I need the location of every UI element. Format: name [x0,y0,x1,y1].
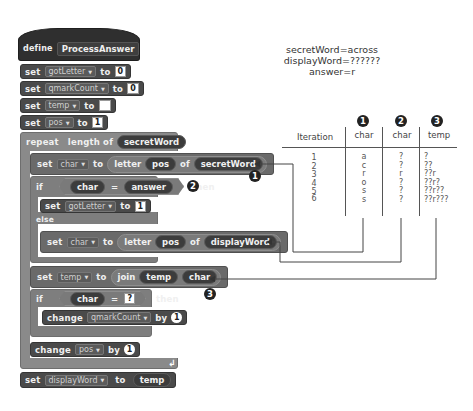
to-keyword: to [78,118,88,128]
procedure-name: ProcessAnswer [57,42,140,56]
dropdown-arrow-icon: ▼ [100,377,104,383]
to-keyword: to [120,201,130,211]
set-qmarkcount-block[interactable]: set qmarkCount▼ to 0 [20,81,144,96]
iteration-column: 1 2 3 4 5 6 [308,154,320,204]
set-keyword: set [25,67,41,77]
table-header-divider [282,147,457,148]
header-char-1: char [347,130,381,140]
of-keyword: of [180,159,190,169]
value-input[interactable] [99,100,111,111]
equals-operator: = [111,182,118,192]
set-displayword-block[interactable]: set displayWord▼ to temp [20,372,176,388]
of-keyword: of [190,237,200,247]
char-reporter[interactable]: char [70,292,105,306]
repeat-header: repeat length of secretWord [22,134,190,150]
set-keyword: set [25,118,41,128]
set-gotletter-1-block[interactable]: set gotLetter▼ to 1 [40,199,151,213]
table-cell: 6 [308,195,320,204]
repeat-keyword: repeat [26,137,59,147]
set-keyword: set [47,237,63,247]
by-keyword: by [108,345,120,355]
set-keyword: set [25,101,41,111]
define-block[interactable]: define ProcessAnswer [18,28,140,61]
length-of-op: length of [68,137,113,147]
dropdown-arrow-icon: ▼ [81,161,85,167]
table-cell: s [358,196,370,205]
answer-reporter[interactable]: answer [124,180,173,194]
char2-column: ? ? r ? ? ? [395,153,407,205]
set-char-secretword-block[interactable]: set char▼ to letter pos of secretWord [30,153,274,175]
secretword-reporter[interactable]: secretWord [117,135,186,149]
variable-dropdown[interactable]: qmarkCount▼ [45,83,109,94]
variable-dropdown[interactable]: pos▼ [75,344,104,355]
variable-dropdown[interactable]: char▼ [67,237,100,248]
char1-column: a c r o s s [358,153,370,205]
table-cell: ??r??? [424,196,464,205]
to-keyword: to [103,237,113,247]
to-keyword: to [115,375,125,385]
dropdown-arrow-icon: ▼ [66,120,70,126]
temp-reporter[interactable]: temp [133,373,172,387]
value-input[interactable]: 1 [135,201,147,212]
variable-dropdown[interactable]: gotLetter▼ [45,66,97,77]
letter-keyword: letter [114,159,141,169]
change-pos-block[interactable]: change pos▼ by 1 [30,342,140,357]
secretword-value: secretWord=across [282,44,382,55]
dropdown-arrow-icon: ▼ [84,274,88,280]
annotation-badge-3: 3 [204,288,216,300]
change-keyword: change [35,345,71,355]
annotation-badge-1: 1 [249,170,261,182]
to-keyword: to [96,272,106,282]
dropdown-arrow-icon: ▼ [91,239,95,245]
to-keyword: to [113,84,123,94]
set-keyword: set [25,84,41,94]
letter-of-reporter[interactable]: letter pos of displayWord [117,234,281,251]
header-temp: temp [422,130,456,140]
equals-condition[interactable]: char = ? [59,291,146,306]
dropdown-arrow-icon: ▼ [72,103,76,109]
variable-dropdown[interactable]: gotLetter▼ [65,201,117,212]
temp-reporter[interactable]: temp [139,270,178,284]
to-keyword: to [84,101,94,111]
value-input[interactable]: 0 [127,83,139,94]
change-keyword: change [47,313,83,323]
value-input[interactable]: 1 [171,312,182,323]
value-input[interactable]: 0 [115,66,127,77]
variable-dropdown[interactable]: char▼ [57,159,90,170]
secretword-reporter[interactable]: secretWord [194,157,263,171]
set-temp-join-block[interactable]: set temp▼ to join temp char [30,266,228,288]
displayword-reporter[interactable]: displayWord [204,235,277,249]
set-keyword: set [25,375,41,385]
dropdown-arrow-icon: ▼ [101,86,105,92]
join-reporter[interactable]: join temp char [111,269,222,286]
loop-arrow-icon: ↲ [168,358,176,368]
variable-dropdown[interactable]: temp▼ [57,272,93,283]
variable-info: secretWord=across displayWord=?????? ans… [282,44,382,77]
set-gotletter-block[interactable]: set gotLetter▼ to 0 [20,64,131,79]
variable-dropdown[interactable]: qmarkCount▼ [87,312,151,323]
char-reporter[interactable]: char [182,270,217,284]
annotation-badge-2: 2 [187,180,199,192]
letter-of-reporter[interactable]: letter pos of secretWord [107,156,266,173]
value-input[interactable]: 1 [124,344,135,355]
pos-reporter[interactable]: pos [155,235,186,249]
to-keyword: to [100,67,110,77]
set-pos-block[interactable]: set pos▼ to 1 [20,115,108,130]
table-cell: ? [395,196,407,205]
value-input[interactable]: 1 [92,117,104,128]
equals-condition[interactable]: char = answer [59,178,184,195]
variable-dropdown[interactable]: pos▼ [45,117,74,128]
equals-operator: = [111,294,118,304]
variable-dropdown[interactable]: displayWord▼ [45,375,109,386]
char-reporter[interactable]: char [70,180,105,194]
set-temp-block[interactable]: set temp▼ to [20,98,116,113]
set-keyword: set [37,159,53,169]
table-column-divider [419,127,420,216]
set-char-displayword-block[interactable]: set char▼ to letter pos of displayWord [40,231,288,253]
then-keyword: then [156,294,179,304]
qmark-input[interactable]: ? [124,293,135,304]
column-badge-1: 1 [357,115,369,127]
variable-dropdown[interactable]: temp▼ [45,100,81,111]
change-qmarkcount-block[interactable]: change qmarkCount▼ by 1 [42,310,187,325]
pos-reporter[interactable]: pos [145,157,176,171]
